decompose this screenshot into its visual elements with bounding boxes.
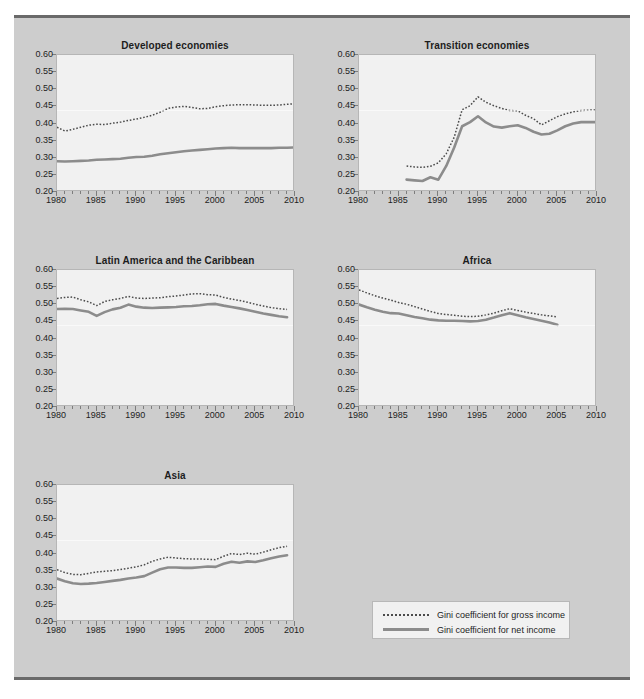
x-tick-mark (421, 191, 422, 194)
x-tick-mark (262, 621, 263, 624)
x-tick-mark (485, 191, 486, 194)
x-tick-mark (286, 621, 287, 624)
x-tick-label: 1980 (348, 195, 368, 205)
y-tick-label: 0.30 (35, 367, 53, 377)
chart-title: Latin America and the Caribbean (56, 255, 294, 266)
x-tick-mark (238, 191, 239, 194)
x-tick-mark (429, 191, 430, 194)
x-tick-mark (390, 191, 391, 194)
x-tick-label: 2005 (244, 625, 264, 635)
x-tick-mark (580, 406, 581, 409)
y-tick-label: 0.60 (337, 49, 355, 59)
x-tick-mark (382, 406, 383, 409)
y-tick-label: 0.55 (337, 281, 355, 291)
x-tick-mark (80, 621, 81, 624)
y-tick-label: 0.60 (35, 264, 53, 274)
y-tick-label: 0.45 (35, 530, 53, 540)
dotted-line-icon (383, 614, 429, 616)
legend-item: Gini coefficient for gross income (373, 607, 569, 622)
x-tick-label: 2005 (546, 195, 566, 205)
legend-item: Gini coefficient for net income (373, 622, 569, 637)
x-tick-mark (525, 406, 526, 409)
y-tick-label: 0.55 (35, 66, 53, 76)
x-tick-mark (564, 406, 565, 409)
x-tick-mark (143, 406, 144, 409)
legend-label: Gini coefficient for gross income (437, 610, 565, 620)
series-net-income (57, 147, 294, 161)
y-tick-label: 0.50 (35, 513, 53, 523)
series-net-income (57, 304, 287, 317)
chart-title: Transition economies (358, 40, 596, 51)
x-tick-mark (414, 406, 415, 409)
x-tick-mark (421, 406, 422, 409)
x-tick-mark (167, 406, 168, 409)
background-artifact (359, 110, 595, 111)
x-tick-label: 1980 (46, 195, 66, 205)
x-tick-mark (127, 406, 128, 409)
x-tick-mark (231, 191, 232, 194)
x-tick-mark (223, 621, 224, 624)
x-tick-mark (374, 191, 375, 194)
x-tick-mark (533, 406, 534, 409)
x-tick-mark (191, 191, 192, 194)
y-tick-label: 0.30 (337, 367, 355, 377)
x-tick-mark (278, 406, 279, 409)
y-tick-label: 0.35 (35, 135, 53, 145)
x-tick-mark (525, 191, 526, 194)
x-tick-mark (159, 621, 160, 624)
x-tick-mark (588, 406, 589, 409)
y-axis-labels: 0.200.250.300.350.400.450.500.550.60 (332, 269, 355, 406)
x-tick-mark (262, 406, 263, 409)
x-tick-label: 1985 (388, 410, 408, 420)
x-tick-mark (119, 191, 120, 194)
x-tick-mark (414, 191, 415, 194)
x-tick-mark (366, 191, 367, 194)
x-tick-mark (246, 621, 247, 624)
x-tick-label: 2000 (205, 195, 225, 205)
y-tick-label: 0.30 (35, 582, 53, 592)
x-tick-mark (64, 406, 65, 409)
x-tick-mark (246, 406, 247, 409)
y-tick-label: 0.25 (337, 384, 355, 394)
y-tick-label: 0.40 (337, 333, 355, 343)
x-tick-label: 2000 (507, 410, 527, 420)
x-tick-label: 1985 (86, 195, 106, 205)
x-tick-mark (572, 406, 573, 409)
x-tick-mark (64, 191, 65, 194)
y-tick-label: 0.25 (35, 599, 53, 609)
x-tick-mark (231, 621, 232, 624)
y-tick-label: 0.35 (35, 350, 53, 360)
x-tick-mark (374, 406, 375, 409)
x-tick-mark (286, 406, 287, 409)
x-tick-mark (390, 406, 391, 409)
y-tick-label: 0.30 (337, 152, 355, 162)
x-tick-label: 2005 (546, 410, 566, 420)
x-tick-mark (580, 191, 581, 194)
x-tick-mark (469, 191, 470, 194)
x-tick-mark (104, 621, 105, 624)
chart-1: Developed economies0.200.250.300.350.400… (30, 40, 294, 205)
x-tick-mark (572, 191, 573, 194)
x-tick-mark (461, 406, 462, 409)
x-tick-mark (80, 191, 81, 194)
x-tick-mark (278, 191, 279, 194)
x-tick-mark (72, 406, 73, 409)
x-tick-mark (151, 621, 152, 624)
y-tick-label: 0.45 (337, 315, 355, 325)
x-tick-label: 2000 (507, 195, 527, 205)
x-tick-label: 2010 (284, 410, 304, 420)
series-canvas (57, 270, 294, 406)
y-tick-label: 0.25 (35, 169, 53, 179)
x-tick-mark (112, 621, 113, 624)
series-net-income (57, 555, 287, 584)
x-tick-mark (207, 406, 208, 409)
x-tick-mark (183, 191, 184, 194)
x-tick-label: 1995 (467, 195, 487, 205)
x-tick-mark (453, 191, 454, 194)
background-artifact (359, 325, 595, 326)
x-tick-label: 1985 (388, 195, 408, 205)
x-tick-label: 1985 (86, 410, 106, 420)
x-tick-label: 1980 (46, 410, 66, 420)
x-tick-label: 1990 (427, 410, 447, 420)
x-tick-mark (238, 621, 239, 624)
